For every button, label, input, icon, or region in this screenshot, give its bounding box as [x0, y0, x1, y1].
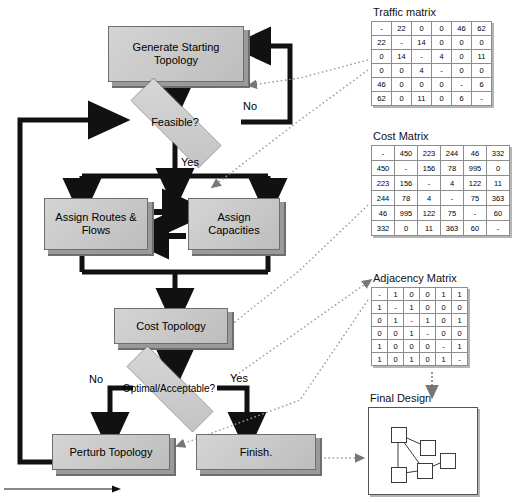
cell: 0	[452, 301, 468, 314]
cell: 11	[418, 221, 441, 236]
node-optimal-acceptable-label: Optimal/Acceptable?	[104, 368, 234, 408]
cell: 22	[372, 36, 392, 50]
cost-matrix-table: - 450 223 244 46 332 450 - 156 78 995 0 …	[371, 145, 510, 236]
cell: 1	[436, 288, 452, 301]
cell: 0	[392, 64, 412, 78]
cell: 4	[441, 176, 464, 191]
cell: 78	[441, 161, 464, 176]
panel-final-design-title: Final Design	[370, 392, 478, 404]
node-feasible-decision[interactable]: Feasible?	[108, 100, 242, 144]
final-design-canvas	[368, 407, 478, 495]
cell: 11	[472, 50, 492, 64]
network-node	[417, 463, 433, 479]
cell: 1	[452, 314, 468, 327]
cell: 0	[388, 340, 404, 353]
cell: -	[432, 64, 452, 78]
node-perturb-topology[interactable]: Perturb Topology	[52, 434, 170, 470]
cell: 0	[472, 36, 492, 50]
cell: 450	[372, 161, 395, 176]
cell: 0	[436, 301, 452, 314]
cell: 0	[372, 314, 388, 327]
cell: 0	[372, 64, 392, 78]
cell: 0	[392, 78, 412, 92]
cell: 1	[452, 288, 468, 301]
cell: 0	[432, 36, 452, 50]
table-row: 22 - 14 0 0 0	[372, 36, 492, 50]
network-node	[391, 467, 407, 483]
node-cost-topology[interactable]: Cost Topology	[114, 308, 228, 344]
cell: 122	[464, 176, 487, 191]
cell: -	[395, 161, 418, 176]
cell: -	[441, 191, 464, 206]
cell: 75	[464, 191, 487, 206]
cell: -	[452, 353, 468, 366]
cell: 0	[487, 161, 510, 176]
adjacency-matrix-table: - 1 0 0 1 1 1 - 1 0 0 0 0 1	[371, 287, 468, 366]
node-generate-starting-topology[interactable]: Generate Starting Topology	[108, 26, 244, 82]
panel-traffic-matrix-title: Traffic matrix	[373, 6, 492, 18]
table-row: 1 0 0 0 - 1	[372, 340, 468, 353]
node-assign-capacities[interactable]: Assign Capacities	[188, 198, 280, 250]
network-node	[391, 427, 407, 443]
cell: 46	[372, 206, 395, 221]
cell: 0	[420, 340, 436, 353]
cell: 1	[404, 353, 420, 366]
cell: 0	[432, 78, 452, 92]
cell: 1	[372, 353, 388, 366]
edge-label-feasible-yes: Yes	[181, 156, 199, 168]
table-row: 0 0 4 - 0 0	[372, 64, 492, 78]
table-row: 62 0 11 0 6 -	[372, 92, 492, 106]
cell: 0	[432, 22, 452, 36]
node-feasible-label: Feasible?	[108, 100, 242, 144]
cell: 156	[395, 176, 418, 191]
cell: 1	[372, 301, 388, 314]
cell: -	[372, 146, 395, 161]
table-row: 0 1 - 1 0 1	[372, 314, 468, 327]
node-assign-routes-flows[interactable]: Assign Routes & Flows	[44, 198, 148, 250]
cell: -	[404, 314, 420, 327]
cell: 1	[388, 288, 404, 301]
node-finish[interactable]: Finish.	[196, 434, 316, 470]
node-finish-label: Finish.	[236, 446, 276, 459]
node-generate-starting-topology-label: Generate Starting Topology	[109, 41, 243, 67]
cell: 1	[388, 314, 404, 327]
cell: -	[420, 327, 436, 340]
cell: 244	[372, 191, 395, 206]
cell: -	[388, 301, 404, 314]
diagram-canvas: Generate Starting Topology Feasible? Ass…	[0, 0, 524, 502]
table-row: 1 - 1 0 0 0	[372, 301, 468, 314]
cell: 995	[395, 206, 418, 221]
cell: 450	[395, 146, 418, 161]
cell: 11	[487, 176, 510, 191]
cell: 22	[392, 22, 412, 36]
cell: 0	[388, 327, 404, 340]
node-assign-capacities-label: Assign Capacities	[189, 211, 279, 237]
cell: 0	[452, 36, 472, 50]
table-row: - 1 0 0 1 1	[372, 288, 468, 301]
cell: 0	[404, 340, 420, 353]
cell: 6	[452, 92, 472, 106]
cell: 1	[404, 327, 420, 340]
cell: 62	[472, 22, 492, 36]
cell: 244	[441, 146, 464, 161]
cell: 14	[392, 50, 412, 64]
cell: -	[372, 288, 388, 301]
cell: 363	[487, 191, 510, 206]
cell: 46	[372, 78, 392, 92]
node-optimal-acceptable-decision[interactable]: Optimal/Acceptable?	[104, 368, 234, 408]
cell: -	[487, 221, 510, 236]
cell: 0	[404, 288, 420, 301]
edge-label-feasible-no: No	[243, 100, 257, 112]
cell: 1	[452, 340, 468, 353]
cell: 1	[404, 301, 420, 314]
cell: 14	[412, 36, 432, 50]
cell: 0	[420, 288, 436, 301]
node-cost-topology-label: Cost Topology	[132, 320, 210, 333]
table-row: - 450 223 244 46 332	[372, 146, 510, 161]
cell: 0	[452, 50, 472, 64]
cell: 11	[412, 92, 432, 106]
cell: 0	[452, 327, 468, 340]
cell: 78	[395, 191, 418, 206]
cell: 46	[452, 22, 472, 36]
cell: 0	[436, 314, 452, 327]
